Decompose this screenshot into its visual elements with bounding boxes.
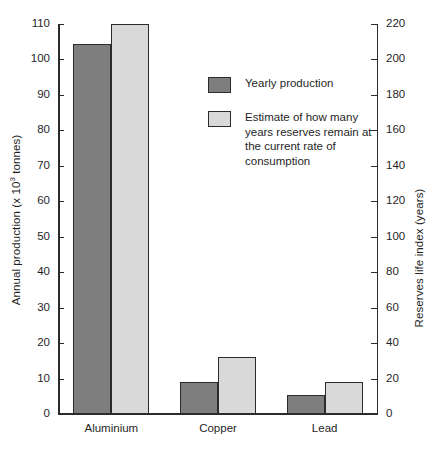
y-axis-right-tick-label: 220 <box>386 18 405 30</box>
y-axis-right-tick <box>371 414 377 415</box>
y-axis-right-tick <box>371 379 377 380</box>
y-axis-left-tick-label: 0 <box>44 408 50 420</box>
y-axis-left-tick <box>58 166 64 167</box>
y-axis-left-tick <box>58 59 64 60</box>
bar-reserves-life-index <box>111 24 149 414</box>
y-axis-right-title: Reserves life index (years) <box>413 158 425 358</box>
y-axis-left-tick-label: 30 <box>37 302 50 314</box>
y-axis-left-tick <box>58 237 64 238</box>
y-axis-right-tick-label: 0 <box>386 408 392 420</box>
x-axis-category-label: Aluminium <box>84 422 138 434</box>
y-axis-left-tick <box>58 343 64 344</box>
y-axis-left-tick <box>58 308 64 309</box>
bar-yearly-production <box>287 395 325 415</box>
y-axis-left-tick-label: 70 <box>37 160 50 172</box>
y-axis-right-tick <box>371 59 377 60</box>
bar-reserves-life-index <box>218 357 256 414</box>
y-axis-right-tick <box>371 343 377 344</box>
y-axis-left-title-superscript: 3 <box>8 177 17 182</box>
y-axis-left-tick <box>58 95 64 96</box>
y-axis-left-tick-label: 20 <box>37 337 50 349</box>
y-axis-right-tick-label: 100 <box>386 231 405 243</box>
y-axis-left-tick-label: 100 <box>31 54 50 66</box>
y-axis-left-tick-label: 90 <box>37 89 50 101</box>
bar-reserves-life-index <box>325 382 363 414</box>
y-axis-right-tick <box>371 201 377 202</box>
y-axis-right-tick <box>371 272 377 273</box>
y-axis-left-tick-label: 10 <box>37 373 50 385</box>
y-axis-left-tick-label: 60 <box>37 196 50 208</box>
y-axis-right-tick <box>371 24 377 25</box>
y-axis-right-tick-label: 60 <box>386 302 399 314</box>
y-axis-right-tick <box>371 308 377 309</box>
legend-swatch <box>208 111 231 127</box>
legend-swatch <box>208 77 231 93</box>
y-axis-right-tick-label: 40 <box>386 337 399 349</box>
y-axis-left-tick <box>58 272 64 273</box>
legend-label: Yearly production <box>245 76 333 91</box>
legend-item: Yearly production <box>208 76 398 93</box>
y-axis-left-tick-label: 40 <box>37 266 50 278</box>
bar-yearly-production <box>73 44 111 415</box>
y-axis-left-title-main: Annual production (x 10 <box>10 182 22 306</box>
y-axis-left-tick-label: 80 <box>37 125 50 137</box>
chart-legend: Yearly productionEstimate of how many ye… <box>208 76 398 185</box>
y-axis-right-tick <box>371 237 377 238</box>
y-axis-left-tick-label: 110 <box>32 18 50 30</box>
y-axis-right-tick-label: 200 <box>386 54 405 66</box>
x-axis-category-label: Lead <box>312 422 338 434</box>
bar-chart-figure: Annual production (x 103 tonnes) Reserve… <box>0 0 435 451</box>
y-axis-right-tick-label: 120 <box>386 196 405 208</box>
y-axis-left-title-tail: tonnes) <box>10 135 22 177</box>
y-axis-left-tick <box>58 201 64 202</box>
bar-yearly-production <box>180 382 218 414</box>
y-axis-left-tick <box>58 130 64 131</box>
legend-label: Estimate of how many years reserves rema… <box>245 110 385 168</box>
y-axis-right-tick-label: 80 <box>386 266 399 278</box>
y-axis-right-tick-label: 20 <box>386 373 399 385</box>
y-axis-left-tick <box>58 24 64 25</box>
y-axis-left-tick <box>58 414 64 415</box>
y-axis-left-spine <box>58 24 60 414</box>
y-axis-left-title: Annual production (x 103 tonnes) <box>10 120 22 320</box>
y-axis-left-tick <box>58 379 64 380</box>
x-axis-category-label: Copper <box>199 422 237 434</box>
y-axis-left-tick-label: 50 <box>37 231 50 243</box>
legend-item: Estimate of how many years reserves rema… <box>208 110 398 168</box>
